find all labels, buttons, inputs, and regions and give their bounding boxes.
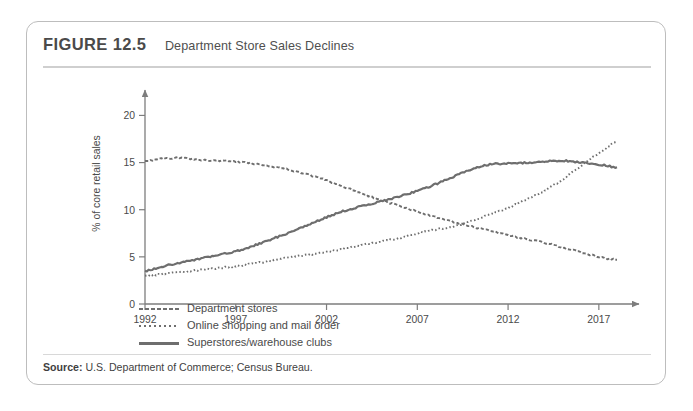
figure-number: FIGURE 12.5 — [43, 35, 146, 54]
source-text: U.S. Department of Commerce; Census Bure… — [85, 361, 312, 373]
y-tick-label: 5 — [129, 252, 135, 263]
figure-header: FIGURE 12.5 Department Store Sales Decli… — [43, 35, 649, 65]
x-tick-label: 2017 — [587, 314, 610, 325]
series-line-department-stores — [145, 157, 617, 260]
figure-title: Department Store Sales Declines — [165, 39, 354, 53]
figure-card: FIGURE 12.5 Department Store Sales Decli… — [26, 21, 666, 385]
chart-legend: Department stores Online shopping and ma… — [139, 300, 559, 351]
y-tick-label: 10 — [123, 205, 135, 216]
y-tick-label: 20 — [123, 110, 135, 121]
y-axis-title: % of core retail sales — [91, 109, 102, 259]
source-label: Source: — [43, 361, 82, 373]
y-tick-label: 0 — [129, 299, 135, 310]
legend-label-superstores: Superstores/warehouse clubs — [187, 334, 332, 351]
source-divider — [43, 354, 651, 355]
legend-swatch-dashed — [139, 308, 179, 310]
legend-item-online-shopping: Online shopping and mail order — [139, 317, 559, 334]
legend-item-department-stores: Department stores — [139, 300, 559, 317]
source-note: Source: U.S. Department of Commerce; Cen… — [43, 361, 313, 373]
legend-swatch-solid — [139, 342, 179, 345]
legend-swatch-dotted — [139, 325, 179, 327]
series-line-superstores-warehouse-clubs — [145, 160, 617, 271]
legend-item-superstores: Superstores/warehouse clubs — [139, 334, 559, 351]
y-tick-label: 15 — [123, 157, 135, 168]
legend-label-online-shopping: Online shopping and mail order — [187, 317, 340, 334]
legend-label-department-stores: Department stores — [187, 300, 277, 317]
